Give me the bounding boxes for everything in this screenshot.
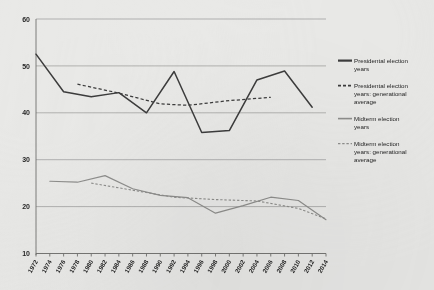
x-axis-tick-label: 1990 xyxy=(150,258,163,274)
chart-canvas: 605040302010 197219741976197819801982198… xyxy=(0,0,434,290)
line-chart: 605040302010 197219741976197819801982198… xyxy=(0,0,434,290)
legend-item-midterm-years[interactable]: Midterm electionyears xyxy=(338,115,400,130)
y-axis-tick-label: 20 xyxy=(22,203,30,210)
legend-label: Midterm election xyxy=(354,115,400,122)
y-axis-tick-label: 40 xyxy=(22,109,30,116)
legend-item-midterm-generational-average[interactable]: Midterm electionyears: generationalavera… xyxy=(338,140,407,163)
x-axis-tick-label: 2004 xyxy=(247,258,260,274)
midterm-generational-average-line xyxy=(91,183,326,219)
gridlines-group xyxy=(36,19,326,254)
x-axis-tick-label: 2002 xyxy=(233,258,246,274)
x-axis-tick-label: 1974 xyxy=(40,258,53,274)
x-axis-tick-label: 1978 xyxy=(68,258,81,274)
y-axis-tick-label: 30 xyxy=(22,156,30,163)
legend-label: Presidental election xyxy=(354,82,409,89)
x-axis-tick-label: 2014 xyxy=(316,258,329,274)
y-axis-tick-label: 60 xyxy=(22,16,30,23)
x-axis-tick-label: 2006 xyxy=(261,258,274,274)
x-axis-tick-label: 1998 xyxy=(206,258,219,274)
x-axis-tick-label: 1996 xyxy=(192,258,205,274)
legend-label: Midterm election xyxy=(354,140,400,147)
legend-item-presidential-years[interactable]: Presidental electionyears xyxy=(338,57,409,72)
x-axis-labels-group: 1972197419761978198019821984198619881990… xyxy=(26,258,329,274)
data-series-group xyxy=(36,54,326,220)
y-axis-labels-group: 605040302010 xyxy=(22,16,30,258)
x-axis-tick-label: 1976 xyxy=(54,258,67,274)
x-axis-tick-label: 2012 xyxy=(302,258,315,274)
legend-label: years xyxy=(354,65,369,72)
x-axis-tick-label: 1984 xyxy=(109,258,122,274)
x-axis-tick-label: 1992 xyxy=(164,258,177,274)
y-axis-tick-label: 50 xyxy=(22,63,30,70)
legend-label: years: generational xyxy=(354,90,407,97)
x-axis-tick-label: 1986 xyxy=(123,258,136,274)
legend-item-presidential-generational-average[interactable]: Presidental electionyears: generationala… xyxy=(338,82,409,105)
x-axis-tick-label: 2008 xyxy=(275,258,288,274)
x-axis-tick-label: 2000 xyxy=(219,258,232,274)
x-axis-tick-label: 1982 xyxy=(95,258,108,274)
legend-label: years: generational xyxy=(354,148,407,155)
legend-label: Presidental election xyxy=(354,57,409,64)
x-axis-tick-label: 2010 xyxy=(289,258,302,274)
x-axis-tick-label: 1988 xyxy=(137,258,150,274)
y-axis-tick-label: 10 xyxy=(22,250,30,257)
chart-legend: Presidental electionyearsPresidental ele… xyxy=(338,57,409,163)
legend-label: average xyxy=(354,98,377,105)
legend-label: years xyxy=(354,123,369,130)
legend-label: average xyxy=(354,156,377,163)
x-axis-tick-label: 1972 xyxy=(26,258,39,274)
x-axis-tick-label: 1980 xyxy=(81,258,94,274)
x-axis-tick-label: 1994 xyxy=(178,258,191,274)
